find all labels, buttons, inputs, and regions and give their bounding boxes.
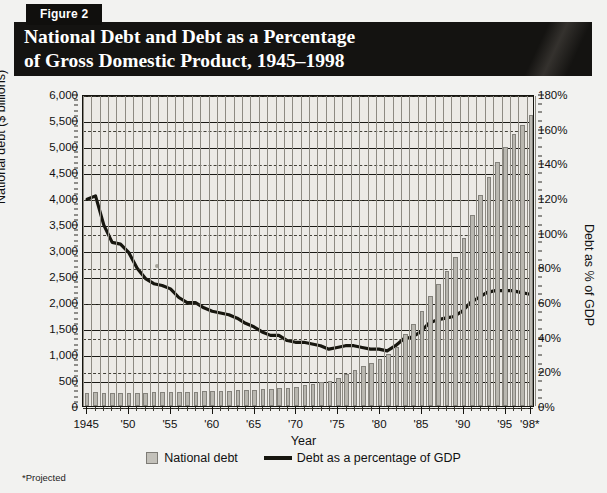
bar-national-debt [353,370,358,406]
y-axis-right-tickmark [538,147,542,148]
bar-national-debt [169,392,174,406]
bar-national-debt [512,134,517,406]
y-axis-left-ticklabel: 1,500 [22,323,78,335]
x-axis-tickmark [429,407,430,411]
bar-national-debt [110,393,115,406]
gridline-vertical [183,96,184,406]
y-axis-left-tickmark [74,287,78,288]
x-axis-tickmark [262,407,263,411]
x-axis-tickmark [321,407,322,411]
y-axis-left-tickmark [74,271,78,272]
y-axis-left-ticklabel: 3,500 [22,219,78,231]
y-axis-left-tickmark [74,318,78,319]
gridline-vertical [309,96,310,406]
gridline-vertical [351,96,352,406]
gridline-vertical [359,96,360,406]
y-axis-right-tickmark [538,173,542,174]
gridline-vertical [217,96,218,406]
y-axis-left-tickmark [74,115,78,116]
gridline-vertical [401,96,402,406]
x-axis-tickmark [245,407,246,411]
gridline-vertical [225,96,226,406]
gridline-vertical [125,96,126,406]
x-axis-ticklabel: '85 [414,418,429,430]
bar-national-debt [269,389,274,406]
figure-number-tag: Figure 2 [26,4,102,25]
x-axis-tickmark [295,407,296,414]
gridline-vertical [451,96,452,406]
x-axis-tickmark [346,407,347,411]
y-axis-left-ticklabel: 6,000 [22,89,78,101]
bar-national-debt [135,393,140,406]
x-axis-tickmark [480,407,481,411]
x-axis-ticklabel: '90 [455,418,470,430]
y-axis-left-tickmark [74,193,78,194]
bar-national-debt [227,391,232,406]
y-axis-right-tickmark [538,285,542,286]
y-axis-left-tickmark [74,245,78,246]
y-axis-right-tickmark [538,155,542,156]
gridline-vertical [393,96,394,406]
y-axis-left-tickmark [74,235,78,236]
y-axis-left-ticklabel: 5,500 [22,115,78,127]
x-axis-tickmark [111,407,112,411]
y-axis-right-ticklabel: 40% [538,332,584,344]
y-axis-right-tickmark [538,103,542,104]
gridline-vertical [83,96,84,406]
x-axis-tickmark [220,407,221,411]
gridline-vertical [510,96,511,406]
y-axis-left-tickmark [74,214,78,215]
y-axis-left-ticklabel: 500 [22,375,78,387]
x-axis-tickmark [404,407,405,411]
y-axis-right-ticklabel: 160% [538,124,584,136]
y-axis-left-tickmark [74,292,78,293]
bar-national-debt [470,215,475,406]
x-axis-tickmark [513,407,514,411]
y-axis-right-tickmark [538,138,542,139]
bar-national-debt [118,393,123,406]
y-axis-right-tickmark [538,355,542,356]
bar-national-debt [93,392,98,406]
bar-national-debt [453,257,458,406]
y-axis-left-tickmark [74,141,78,142]
y-axis-right-ticklabel: 120% [538,193,584,205]
bar-national-debt [202,391,207,406]
x-axis-tickmark [279,407,280,411]
gridline-vertical [200,96,201,406]
y-axis-right-tickmark [538,242,542,243]
gridline-vertical [468,96,469,406]
gridline-vertical [209,96,210,406]
x-axis-tickmark [337,407,338,414]
x-axis-tickmark [95,407,96,411]
gridline-vertical [175,96,176,406]
bar-national-debt [520,125,525,406]
gridline-vertical [460,96,461,406]
x-axis-tickmark [379,407,380,414]
x-axis-ticklabel: '50 [121,418,136,430]
y-axis-left-tickmark [74,188,78,189]
gridline-vertical [150,96,151,406]
y-axis-left-tickmark [74,339,78,340]
x-axis-tickmark [454,407,455,411]
y-axis-right-tickmark [538,251,542,252]
y-axis-right-tickmark [538,363,542,364]
x-axis-tickmark [396,407,397,411]
y-axis-right-ticks: 0%20%40%60%80%100%120%140%160%180% [538,95,584,407]
bar-national-debt [369,363,374,406]
y-axis-right-tickmark [538,320,542,321]
y-axis-right-tickmark [538,311,542,312]
x-axis-tickmark [413,407,414,411]
bar-national-debt [286,388,291,406]
y-axis-left-tickmark [74,266,78,267]
chart-area: National debt ($ billions) Debt as % of … [0,84,607,493]
gridline-vertical [368,96,369,406]
y-axis-left-tickmark [74,219,78,220]
x-axis-tickmark [162,407,163,411]
y-axis-left-title: National debt ($ billions) [0,70,8,204]
gridline-vertical [342,96,343,406]
x-axis-tickmark [195,407,196,411]
gridline-vertical [234,96,235,406]
y-axis-left-tickmark [74,375,78,376]
y-axis-left-tickmark [74,209,78,210]
x-axis-tickmark [287,407,288,411]
